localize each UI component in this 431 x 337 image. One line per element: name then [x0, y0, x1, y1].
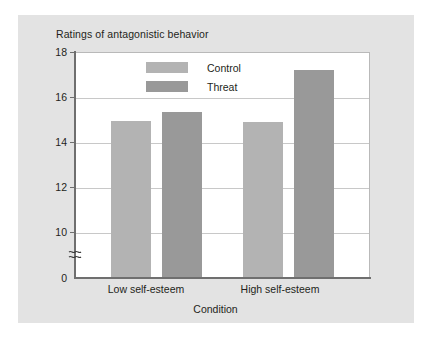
y-tick-label-10: 10 [40, 226, 67, 238]
y-tick-mark-12 [70, 187, 75, 188]
x-axis-spine [74, 277, 371, 279]
chart-figure: Ratings of antagonistic behavior 18 16 1… [0, 0, 431, 337]
chart-title: Ratings of antagonistic behavior [56, 28, 209, 40]
x-tick-label-low-self-esteem: Low self-esteem [96, 283, 196, 295]
axis-break-icon [68, 248, 82, 262]
bar-high-self-esteem-threat [294, 70, 334, 278]
bar-low-self-esteem-threat [162, 112, 202, 278]
y-tick-mark-16 [70, 97, 75, 98]
y-tick-mark-18 [70, 52, 75, 53]
y-tick-label-14: 14 [40, 136, 67, 148]
legend-swatch-control [146, 62, 188, 73]
y-tick-mark-14 [70, 142, 75, 143]
bar-high-self-esteem-control [243, 122, 283, 278]
y-tick-label-16: 16 [40, 91, 67, 103]
legend-label-control: Control [207, 62, 241, 74]
legend-swatch-threat [146, 81, 188, 92]
legend-item-threat: Threat [146, 77, 296, 96]
legend-item-control: Control [146, 58, 296, 77]
y-tick-label-0: 0 [40, 272, 67, 284]
x-axis-title: Condition [0, 303, 431, 315]
y-tick-label-12: 12 [40, 181, 67, 193]
y-tick-mark-10 [70, 232, 75, 233]
chart-legend: Control Threat [146, 58, 296, 96]
y-tick-label-18: 18 [40, 46, 67, 58]
bar-low-self-esteem-control [111, 121, 151, 278]
legend-label-threat: Threat [207, 81, 237, 93]
y-axis-spine [74, 51, 76, 279]
x-tick-label-high-self-esteem: High self-esteem [228, 283, 332, 295]
